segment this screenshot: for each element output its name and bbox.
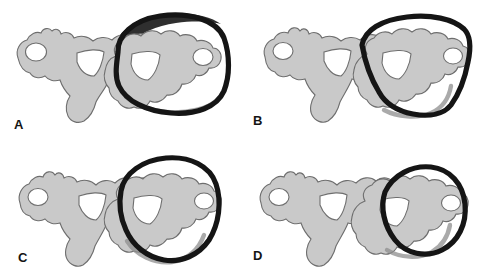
panel-b-foramen-left <box>273 43 293 60</box>
panel-c-illustration <box>0 139 239 278</box>
panel-b-bone-right <box>353 29 470 107</box>
panel-a-foramen-left <box>26 43 47 61</box>
figure-panel-c: C <box>0 139 239 278</box>
panel-label-d: D <box>253 249 263 262</box>
figure-panel-b: B <box>239 0 478 139</box>
figure-panel-a: A <box>0 0 239 139</box>
panel-label-b: B <box>253 114 263 127</box>
panel-b-foramen-right <box>444 48 463 64</box>
panel-d-foramen-left <box>269 189 289 206</box>
panel-a-foramen-right <box>193 49 213 66</box>
panel-label-a: A <box>14 118 24 131</box>
figure-panel-d: D <box>239 139 478 278</box>
figure-root: A B <box>0 0 478 279</box>
panel-d-illustration <box>239 139 478 278</box>
panel-c-foramen-right <box>195 193 214 209</box>
panel-a-illustration <box>0 0 239 139</box>
panel-b-illustration <box>239 0 478 139</box>
panel-label-c: C <box>18 251 28 264</box>
panel-d-foramen-right <box>442 195 461 211</box>
panel-c-foramen-left <box>28 189 48 206</box>
